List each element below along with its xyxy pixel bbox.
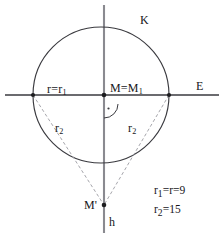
figure-canvas	[0, 0, 222, 238]
label-apex-M-prime: M'	[84, 199, 97, 211]
label-center-text: M=M	[110, 81, 139, 95]
label-line-E: E	[196, 80, 204, 92]
point-right-intersection	[167, 93, 171, 97]
label-radius-subscript: 1	[62, 88, 66, 97]
point-center-M	[102, 93, 107, 98]
right-angle-dot	[107, 107, 109, 109]
label-center-subscript: 1	[139, 87, 143, 96]
point-apex-M-prime	[102, 203, 107, 208]
label-line-h: h	[109, 216, 115, 228]
label-r2-right-subscript: 2	[132, 127, 136, 136]
label-r2-right: r2	[128, 122, 136, 134]
point-left-intersection	[31, 93, 35, 97]
label-radius-text: r=r	[47, 82, 62, 96]
legend: r1=r=9 r2=15	[154, 182, 185, 220]
label-center-M-equals-M1: M=M1	[110, 82, 143, 94]
legend-r2-value: =15	[163, 203, 181, 215]
right-angle-arc	[104, 104, 118, 118]
legend-line-r1: r1=r=9	[154, 182, 185, 201]
geometry-figure: K E r=r1 M=M1 r2 r2 M' h r1=r=9 r2=15	[0, 0, 222, 238]
legend-line-r2: r2=15	[154, 201, 185, 220]
dashed-line-left-r2	[33, 95, 104, 205]
label-circle-K: K	[140, 14, 149, 26]
label-r2-left: r2	[55, 122, 63, 134]
label-radius-r-equals-r1: r=r1	[47, 83, 66, 95]
label-r2-left-subscript: 2	[59, 127, 63, 136]
legend-r1-value: =r=9	[163, 184, 186, 196]
